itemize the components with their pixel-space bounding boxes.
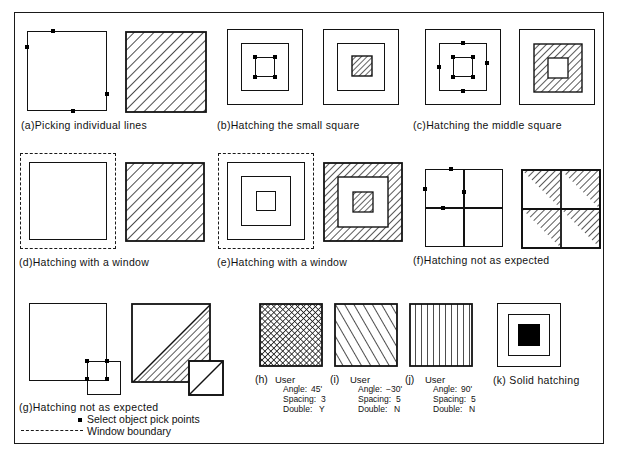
panel-d-result-hatched-square	[125, 162, 205, 242]
pick-point	[273, 75, 277, 79]
panel-c-result-middle-hatched	[533, 43, 583, 93]
panel-e-caption: (e)Hatching with a window	[217, 256, 347, 268]
panel-k: (k) Solid hatching	[483, 281, 593, 401]
pick-point	[253, 75, 257, 79]
panel-e-result-hatched	[323, 162, 403, 242]
pick-point	[273, 55, 277, 59]
panel-e-small-square	[256, 191, 276, 211]
pick-point	[461, 41, 465, 45]
pick-point	[461, 89, 465, 93]
pick-point	[471, 55, 475, 59]
legend-window-boundary-marker	[21, 430, 83, 431]
panel-b-result-small-hatched	[351, 55, 373, 77]
legend-window-boundary-label: Window boundary	[87, 425, 171, 437]
panel-j-hatched-square	[409, 303, 473, 367]
pick-point	[437, 65, 441, 69]
pick-point	[105, 359, 109, 363]
panel-h-index: (h)	[255, 373, 268, 385]
panel-h-double-label: Double:	[283, 405, 312, 415]
panel-i-double-value: N	[394, 405, 400, 415]
pick-point	[471, 75, 475, 79]
panel-h: (h) User Angle: 45' Spacing: 3 Double: Y	[255, 281, 333, 401]
legend-pick-point-marker	[78, 418, 82, 422]
pick-point	[423, 187, 427, 191]
panel-h-crosshatch-square	[259, 303, 323, 367]
panel-g-small-square	[87, 361, 121, 395]
panel-i-index: (i)	[330, 373, 339, 385]
pick-point	[441, 206, 445, 210]
panel-f-caption: (f)Hatching not as expected	[413, 254, 550, 266]
panel-j-double-value: N	[469, 405, 475, 415]
pick-point	[451, 55, 455, 59]
panel-a-result-hatched-square	[125, 31, 207, 113]
panel-j-index: (j)	[405, 373, 414, 385]
pick-point	[462, 190, 466, 194]
panel-j: (j) User Angle: 90' Spacing: 5 Double: N	[405, 281, 483, 401]
pick-point	[253, 55, 257, 59]
panel-c: (c)Hatching the middle square	[411, 13, 605, 133]
panel-i: (i) User Angle: −30' Spacing: 5 Double: …	[330, 281, 408, 401]
legend-pick-points-label: Select object pick points	[87, 413, 200, 425]
panel-k-caption: (k) Solid hatching	[493, 374, 580, 386]
pick-point	[485, 61, 489, 65]
pick-point	[71, 109, 75, 113]
legend: Select object pick points Window boundar…	[15, 411, 245, 445]
panel-f-horizontal-divider	[425, 207, 503, 209]
panel-g: (g)Hatching not as expected	[15, 281, 245, 411]
panel-c-caption: (c)Hatching the middle square	[413, 119, 562, 131]
pick-point	[51, 29, 55, 33]
panel-j-double-label: Double:	[433, 405, 462, 415]
panel-k-solid-filled-square	[518, 324, 540, 346]
pick-point	[105, 377, 109, 381]
panel-f-result-quadrants	[521, 169, 601, 249]
pick-point	[85, 359, 89, 363]
panel-d: (d)Hatching with a window	[15, 143, 211, 268]
panel-g-result-hatched	[131, 303, 235, 399]
pick-point	[449, 167, 453, 171]
pick-point	[451, 75, 455, 79]
panel-b-caption: (b)Hatching the small square	[217, 119, 360, 131]
panel-i-hatched-square	[334, 303, 398, 367]
panel-d-caption: (d)Hatching with a window	[19, 256, 149, 268]
panel-a-caption: (a)Picking individual lines	[21, 119, 147, 131]
pick-point	[85, 377, 89, 381]
panel-d-source-square	[29, 162, 107, 240]
panel-a: (a)Picking individual lines	[15, 13, 211, 133]
panel-a-source-square	[27, 31, 107, 111]
panel-b: (b)Hatching the small square	[213, 13, 409, 133]
panel-b-small-square	[255, 57, 275, 77]
panel-f: (f)Hatching not as expected	[411, 143, 605, 268]
pick-point	[25, 45, 29, 49]
panel-i-double-label: Double:	[358, 405, 387, 415]
figure-frame: (a)Picking individual lines (b)Hatching …	[14, 12, 604, 444]
pick-point	[105, 92, 109, 96]
panel-c-small-square	[453, 57, 473, 77]
panel-e: (e)Hatching with a window	[213, 143, 409, 268]
panel-h-double-value: Y	[319, 405, 325, 415]
